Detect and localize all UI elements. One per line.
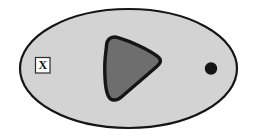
label-box-x: X xyxy=(36,58,51,74)
diagram-canvas: X xyxy=(0,0,257,138)
label-box-x-text: X xyxy=(38,58,47,72)
diagram-svg: X xyxy=(0,0,257,138)
marked-point-dot xyxy=(205,62,217,74)
